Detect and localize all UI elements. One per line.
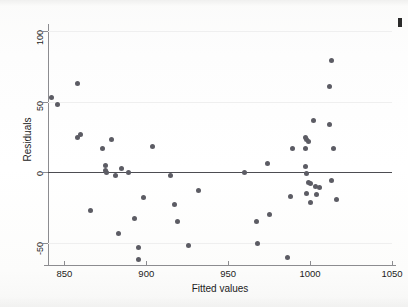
data-point: [88, 208, 93, 213]
scan-edge-top: [0, 0, 408, 6]
y-axis-tick-label: 0: [0, 166, 40, 176]
y-axis-title: Residuals: [22, 85, 33, 195]
x-axis-tick-label: 1000: [290, 268, 330, 279]
data-point: [255, 241, 260, 246]
x-axis-tick-label: 900: [126, 268, 166, 279]
data-point: [304, 171, 309, 176]
data-point: [303, 146, 308, 151]
data-point: [327, 84, 332, 89]
y-axis-tick-label: 50: [0, 96, 40, 106]
data-point: [308, 181, 313, 186]
data-point: [116, 231, 121, 236]
data-point: [119, 166, 124, 171]
plot-area: [48, 28, 392, 262]
data-point: [104, 170, 109, 175]
data-point: [75, 81, 80, 86]
data-point: [136, 245, 141, 250]
data-point: [109, 137, 114, 142]
x-axis-line: [44, 265, 396, 266]
data-point: [113, 173, 118, 178]
data-point: [314, 192, 319, 197]
data-point: [186, 243, 191, 248]
x-axis-tick-label: 1050: [372, 268, 408, 279]
data-point: [141, 195, 146, 200]
data-point: [329, 58, 334, 63]
data-point: [103, 163, 108, 168]
data-point: [285, 255, 290, 260]
x-axis-tick-label: 950: [208, 268, 248, 279]
data-point: [303, 164, 308, 169]
y-axis-tick-label: -50: [0, 237, 40, 247]
data-point: [334, 197, 339, 202]
data-point: [267, 212, 272, 217]
x-axis-title: Fitted values: [48, 283, 392, 294]
zero-line: [48, 172, 392, 173]
data-point: [100, 146, 105, 151]
data-point: [329, 178, 334, 183]
data-point: [317, 185, 322, 190]
data-point: [126, 170, 131, 175]
data-point: [290, 146, 295, 151]
data-point: [327, 122, 332, 127]
data-point: [172, 202, 177, 207]
scan-edge-bottom: [0, 297, 408, 307]
gridline: [48, 243, 392, 244]
data-point: [308, 200, 313, 205]
y-axis-tick-label: 100: [0, 25, 40, 35]
data-point: [55, 102, 60, 107]
data-point: [168, 173, 173, 178]
data-point: [175, 219, 180, 224]
data-point: [306, 139, 311, 144]
data-point: [136, 257, 141, 262]
data-point: [311, 118, 316, 123]
data-point: [78, 132, 83, 137]
page-margin-mark: [398, 18, 402, 27]
data-point: [331, 146, 336, 151]
data-point: [254, 219, 259, 224]
data-point: [242, 170, 247, 175]
data-point: [265, 161, 270, 166]
x-axis-tick-label: 850: [44, 268, 84, 279]
gridline: [48, 102, 392, 103]
data-point: [132, 216, 137, 221]
data-point: [196, 188, 201, 193]
gridline: [48, 31, 392, 32]
data-point: [304, 191, 309, 196]
data-point: [288, 194, 293, 199]
data-point: [150, 144, 155, 149]
scatter-plot-figure: 100500-50 85090095010001050 Fitted value…: [0, 0, 408, 307]
data-point: [49, 95, 54, 100]
x-axis-tick: [392, 261, 393, 266]
